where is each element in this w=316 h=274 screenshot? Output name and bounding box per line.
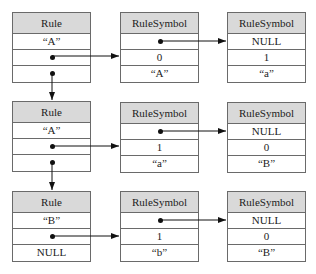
pointer-arrows [0, 0, 316, 274]
